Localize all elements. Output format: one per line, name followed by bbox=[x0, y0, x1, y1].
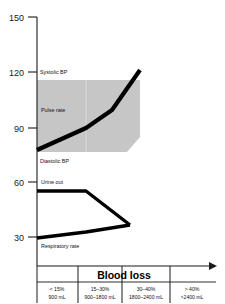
y-tick-label: 60 bbox=[14, 178, 24, 188]
urine-resp-wedge-group bbox=[37, 191, 130, 238]
category-pct-1: < 15% bbox=[50, 286, 65, 292]
y-tick-120: 120 bbox=[9, 68, 37, 78]
y-tick-label: 150 bbox=[9, 13, 24, 23]
y-tick-90: 90 bbox=[14, 124, 37, 134]
category-pct-2: 15–30% bbox=[91, 286, 110, 292]
respiratory-rate-line bbox=[37, 225, 130, 238]
series-label-systolic-bp: Systolic BP bbox=[40, 69, 68, 75]
y-axis-group: 150 120 90 60 30 bbox=[9, 13, 37, 267]
x-axis-title: Blood loss bbox=[97, 269, 151, 281]
y-tick-label: 30 bbox=[14, 233, 24, 243]
category-volume-3: 1800–2400 mL bbox=[129, 294, 163, 300]
series-label-respiratory-rate: Respiratory rate bbox=[41, 243, 79, 249]
x-axis-arrowhead bbox=[209, 262, 217, 270]
x-category-labels: < 15% 900 mL 15–30% 900–1800 mL 30–40% 1… bbox=[49, 286, 204, 300]
category-volume-2: 900–1800 mL bbox=[84, 294, 115, 300]
y-tick-60: 60 bbox=[14, 178, 37, 188]
category-volume-1: 900 mL bbox=[49, 294, 66, 300]
series-label-urine-out: Urine out bbox=[41, 179, 63, 185]
category-volume-4: >2400 mL bbox=[181, 294, 204, 300]
hemorrhagic-shock-chart: 150 120 90 60 30 bbox=[0, 0, 225, 304]
y-tick-label: 90 bbox=[14, 124, 24, 134]
y-tick-label: 120 bbox=[9, 68, 24, 78]
y-tick-150: 150 bbox=[9, 13, 37, 23]
urine-out-line bbox=[37, 191, 130, 225]
chart-svg: 150 120 90 60 30 bbox=[0, 0, 225, 304]
category-pct-4: > 40% bbox=[185, 286, 200, 292]
y-tick-30: 30 bbox=[14, 233, 37, 243]
series-label-pulse-rate: Pulse rate bbox=[41, 107, 65, 113]
category-pct-3: 30–40% bbox=[137, 286, 156, 292]
series-label-diastolic-bp: Diastolic BP bbox=[40, 158, 69, 164]
